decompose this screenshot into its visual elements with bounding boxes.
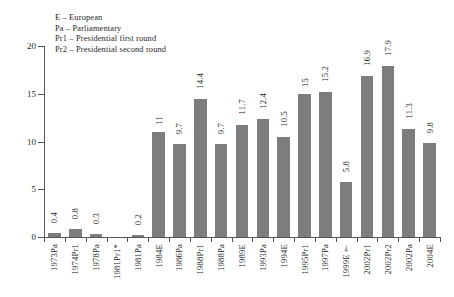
bar bbox=[69, 229, 82, 237]
x-axis-tick bbox=[419, 237, 420, 242]
legend-line-parliamentary: Pa – Parliamentary bbox=[55, 24, 166, 35]
x-axis-tick bbox=[315, 237, 316, 242]
x-axis-category-label: 1994E bbox=[279, 244, 289, 267]
x-axis-category-label: 2002Pr2 bbox=[383, 244, 393, 275]
y-axis-label: 10 bbox=[10, 137, 36, 147]
bar-value-label: 15 bbox=[300, 78, 310, 87]
x-axis-category-label: 2004E bbox=[425, 244, 435, 267]
bar-value-label: 9.8 bbox=[425, 122, 435, 133]
legend-line-presidential-first-round: Pr1 – Presidential first round bbox=[55, 34, 166, 45]
x-axis-category-label: 1993Pa bbox=[258, 244, 268, 271]
y-axis-tick bbox=[38, 94, 44, 95]
bar-value-label: 10.5 bbox=[279, 111, 289, 127]
legend-line-presidential-second-round: Pr2 – Presidential second round bbox=[55, 45, 166, 56]
x-axis-category-label: 2002Pa bbox=[404, 244, 414, 271]
x-axis-tick bbox=[252, 237, 253, 242]
bar bbox=[194, 99, 207, 237]
x-axis-tick bbox=[357, 237, 358, 242]
y-axis-label: 5 bbox=[10, 184, 36, 194]
x-axis-category-label: 1989E bbox=[237, 244, 247, 267]
x-axis-tick bbox=[44, 237, 45, 242]
x-axis-tick bbox=[440, 237, 441, 242]
bar-value-label: 9.7 bbox=[174, 123, 184, 134]
x-axis-category-label: 1986Pa bbox=[174, 244, 184, 271]
x-axis-tick bbox=[86, 237, 87, 242]
bar bbox=[90, 234, 103, 237]
x-axis-tick bbox=[127, 237, 128, 242]
bar bbox=[423, 143, 436, 237]
x-axis-tick bbox=[107, 237, 108, 242]
bar-value-label: 11 bbox=[154, 116, 164, 125]
x-axis-tick bbox=[377, 237, 378, 242]
bar-value-label: 12.4 bbox=[258, 93, 268, 109]
bar bbox=[132, 235, 145, 237]
x-axis-category-label: 2002Pr1 bbox=[362, 244, 372, 275]
x-axis-tick bbox=[294, 237, 295, 242]
x-axis-category-label: 1981Pa bbox=[133, 244, 143, 271]
x-axis-tick bbox=[336, 237, 337, 242]
chart-legend: E – European Pa – Parliamentary Pr1 – Pr… bbox=[55, 13, 166, 55]
x-axis-tick bbox=[273, 237, 274, 242]
bar-value-label: 0.4 bbox=[49, 212, 59, 223]
bar bbox=[152, 132, 165, 237]
bar-value-label: 9.7 bbox=[216, 123, 226, 134]
x-axis-category-label: 1973Pa bbox=[49, 244, 59, 271]
x-axis-category-label: 1988Pr1 bbox=[195, 244, 205, 275]
x-axis-tick bbox=[65, 237, 66, 242]
x-axis-category-label: 1995Pr1 bbox=[300, 244, 310, 275]
x-axis-tick bbox=[148, 237, 149, 242]
bar-value-label: 11.7 bbox=[237, 99, 247, 115]
bar bbox=[173, 144, 186, 237]
bar bbox=[340, 182, 353, 237]
x-axis-category-label: 1978Pa bbox=[91, 244, 101, 271]
x-axis-line bbox=[44, 237, 440, 238]
bar-value-label: 0.8 bbox=[70, 208, 80, 219]
x-axis-tick bbox=[190, 237, 191, 242]
bar-value-label: 16.9 bbox=[362, 50, 372, 66]
bar-chart: E – European Pa – Parliamentary Pr1 – Pr… bbox=[0, 0, 454, 297]
bar bbox=[298, 94, 311, 237]
y-axis-tick bbox=[38, 46, 44, 47]
y-axis-line bbox=[44, 46, 45, 237]
bar-value-label: 15.2 bbox=[320, 66, 330, 82]
y-axis-label: 0 bbox=[10, 232, 36, 242]
x-axis-tick bbox=[398, 237, 399, 242]
bar-value-label: 17.9 bbox=[383, 40, 393, 56]
bar-value-label: 0.3 bbox=[91, 213, 101, 224]
x-axis-category-label: 1997Pa bbox=[320, 244, 330, 271]
bar-value-label: 0.2 bbox=[133, 214, 143, 225]
x-axis-category-label: 1999E† bbox=[341, 244, 351, 278]
y-axis-tick bbox=[38, 142, 44, 143]
bar bbox=[319, 92, 332, 237]
y-axis-label: 15 bbox=[10, 89, 36, 99]
bar bbox=[215, 144, 228, 237]
bar-value-label: 11.3 bbox=[404, 103, 414, 119]
x-axis-tick bbox=[169, 237, 170, 242]
bar bbox=[257, 119, 270, 237]
bar bbox=[402, 129, 415, 237]
bar bbox=[236, 125, 249, 237]
bar-value-label: 5.8 bbox=[341, 161, 351, 172]
x-axis-category-label: 1974Pr1 bbox=[70, 244, 80, 275]
bar bbox=[361, 76, 374, 237]
x-axis-category-label: 1988Pa bbox=[216, 244, 226, 271]
bar-value-label: 14.4 bbox=[195, 73, 205, 89]
x-axis-tick bbox=[211, 237, 212, 242]
y-axis-label: 20 bbox=[10, 41, 36, 51]
bar bbox=[382, 66, 395, 237]
x-axis-category-label: 1981Pr1* bbox=[112, 244, 122, 279]
bar bbox=[277, 137, 290, 237]
legend-line-european: E – European bbox=[55, 13, 166, 24]
x-axis-category-label: 1984E bbox=[154, 244, 164, 267]
y-axis-tick bbox=[38, 189, 44, 190]
bar bbox=[48, 233, 61, 237]
x-axis-tick bbox=[232, 237, 233, 242]
